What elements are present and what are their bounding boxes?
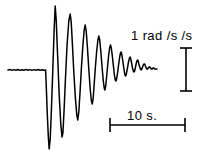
vertical-scale-label: 1 rad /s /s [131, 29, 192, 42]
vertical-scale-bar [180, 48, 192, 91]
horizontal-scale-label: 10 s. [127, 109, 157, 122]
trace-canvas [0, 0, 214, 159]
waveform-figure: 1 rad /s /s 10 s. [0, 0, 214, 159]
